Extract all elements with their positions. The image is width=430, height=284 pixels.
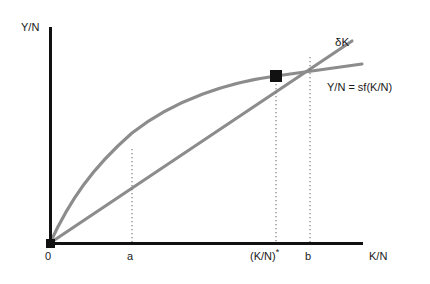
tick-label-k-star: (K/N)* bbox=[250, 251, 279, 262]
tick-label-k-star-asterisk: * bbox=[276, 247, 280, 257]
production-function-curve bbox=[50, 64, 362, 243]
origin-label: 0 bbox=[45, 251, 51, 262]
tick-label-a: a bbox=[127, 251, 133, 262]
tick-label-b: b bbox=[305, 251, 311, 262]
y-axis-label: Y/N bbox=[21, 22, 39, 33]
depreciation-line bbox=[50, 41, 352, 243]
depreciation-line-label: δK bbox=[335, 37, 349, 49]
solow-growth-diagram: Y/N K/N 0 a (K/N)* b δK Y/N = sf(K/N) bbox=[0, 0, 430, 284]
tick-label-k-star-text: (K/N) bbox=[250, 250, 276, 262]
production-function-label: Y/N = sf(K/N) bbox=[327, 82, 392, 93]
origin-marker bbox=[46, 239, 55, 248]
steady-state-marker bbox=[270, 70, 282, 82]
x-axis-label: K/N bbox=[369, 251, 387, 262]
plot-area bbox=[0, 0, 430, 284]
